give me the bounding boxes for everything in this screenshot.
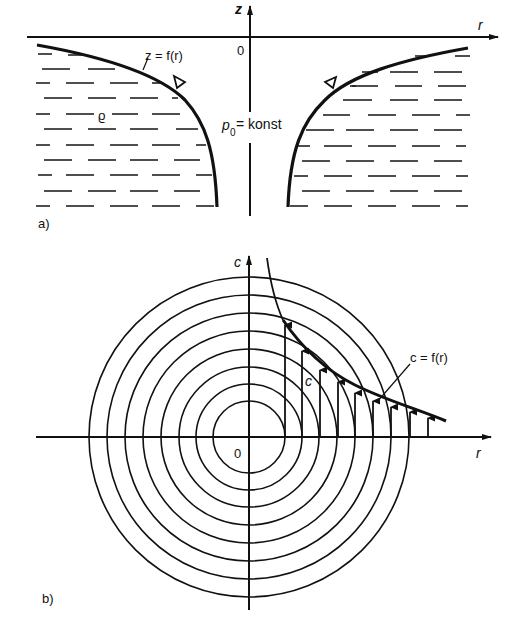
surface-marker-left-icon bbox=[174, 76, 185, 88]
origin-label-a: 0 bbox=[237, 43, 244, 58]
svg-text:= konst: = konst bbox=[236, 116, 282, 132]
liquid-hatching-right bbox=[290, 56, 470, 206]
surface-function-label: z = f(r) bbox=[145, 48, 183, 63]
velocity-label: c bbox=[305, 373, 312, 389]
svg-text:p: p bbox=[221, 117, 230, 133]
figure-b: c r 0 c c = f(r) b) bbox=[36, 254, 491, 610]
diagram-canvas: z r 0 z = f(r) ϱ p 0 = konst a) bbox=[0, 0, 528, 638]
surface-marker-right-icon bbox=[325, 77, 336, 88]
pressure-label: p 0 = konst bbox=[221, 116, 282, 138]
liquid-hatching-left bbox=[36, 54, 214, 206]
velocity-curve-dashed bbox=[267, 258, 283, 320]
curve-function-label: c = f(r) bbox=[410, 350, 448, 365]
r-axis-label-b: r bbox=[476, 445, 482, 461]
figure-a-label: a) bbox=[38, 216, 50, 231]
density-label: ϱ bbox=[98, 108, 105, 123]
figure-b-label: b) bbox=[42, 591, 54, 606]
origin-label-b: 0 bbox=[234, 446, 241, 461]
z-axis-label: z bbox=[234, 1, 242, 17]
figure-a: z r 0 z = f(r) ϱ p 0 = konst a) bbox=[27, 1, 498, 231]
r-axis-label-a: r bbox=[478, 17, 484, 33]
c-axis-label: c bbox=[234, 254, 241, 270]
